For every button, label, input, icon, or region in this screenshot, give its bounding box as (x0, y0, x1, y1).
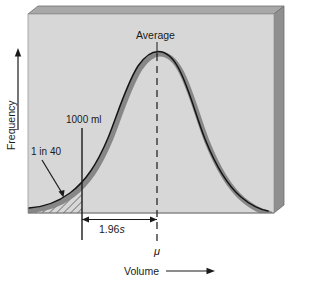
mean-symbol-label: μ (154, 246, 160, 257)
panel-front-face (28, 14, 274, 213)
interval-dimension-line (82, 216, 157, 222)
spec-limit-label: 1000 ml (66, 115, 102, 125)
average-label: Average (136, 30, 175, 41)
x-axis-arrow (166, 268, 215, 274)
panel-right-face (274, 6, 284, 213)
interval-label: 1.96s (99, 224, 125, 235)
interval-value: 1.96 (99, 223, 119, 235)
panel-top-face (28, 6, 284, 14)
x-axis-label: Volume (124, 266, 159, 277)
tail-fraction-label: 1 in 40 (31, 147, 61, 157)
interval-symbol: s (119, 223, 124, 235)
distribution-figure (0, 0, 322, 286)
y-axis-label: Frequency (6, 95, 17, 155)
